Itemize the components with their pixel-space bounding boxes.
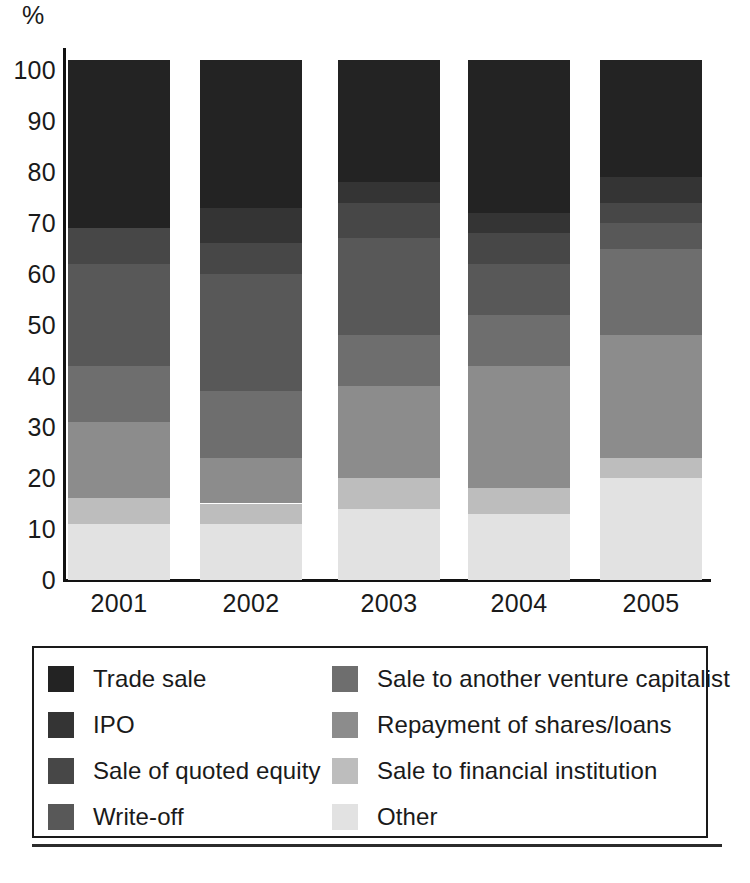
legend-swatch-icon	[332, 758, 358, 784]
legend-label: Sale to another venture capitalist	[377, 666, 730, 692]
bar-segment	[468, 60, 570, 213]
legend-label: Sale of quoted equity	[93, 758, 321, 784]
legend-entry: Sale to another venture capitalist	[332, 662, 730, 696]
bar-segment	[600, 223, 702, 249]
bar-segment	[468, 514, 570, 580]
bar-segment	[600, 478, 702, 580]
bar-column-2002	[200, 0, 302, 580]
legend-entry: Other	[332, 800, 438, 834]
bar-column-2004	[468, 0, 570, 580]
bar-segment	[338, 509, 440, 580]
bar-segment	[338, 182, 440, 202]
legend-underline-rule	[32, 844, 722, 847]
bar-segment	[600, 458, 702, 478]
bar-segment	[338, 335, 440, 386]
bar-segment	[68, 498, 170, 524]
legend-swatch-icon	[332, 804, 358, 830]
bar-segment	[468, 315, 570, 366]
bar-segment	[468, 366, 570, 488]
bar-segment	[200, 524, 302, 580]
bar-segment	[200, 208, 302, 244]
legend-grid: Trade saleSale to another venture capita…	[34, 648, 706, 836]
bar-segment	[338, 478, 440, 509]
x-axis-tick-2005: 2005	[600, 588, 702, 618]
bar-segment	[68, 228, 170, 264]
bar-segment	[600, 203, 702, 223]
bar-segment	[600, 335, 702, 457]
bar-segment	[468, 233, 570, 264]
bar-segment	[468, 213, 570, 233]
bar-segment	[468, 264, 570, 315]
bar-segment	[200, 243, 302, 274]
bar-segment	[200, 60, 302, 208]
legend-label: Trade sale	[93, 666, 207, 692]
bar-segment	[600, 249, 702, 336]
legend-entry: Repayment of shares/loans	[332, 708, 672, 742]
x-axis-tick-labels: 20012002200320042005	[0, 588, 750, 628]
bar-column-2003	[338, 0, 440, 580]
bar-segment	[338, 238, 440, 335]
legend-swatch-icon	[332, 666, 358, 692]
stacked-bar-chart: % 1009080706050403020100 200120022003200…	[0, 0, 750, 640]
bar-segment	[68, 60, 170, 228]
x-axis-tick-2003: 2003	[338, 588, 440, 618]
bar-segment	[200, 458, 302, 504]
legend-entry: Write-off	[48, 800, 184, 834]
legend-label: Write-off	[93, 804, 184, 830]
legend-label: Repayment of shares/loans	[377, 712, 672, 738]
legend-swatch-icon	[332, 712, 358, 738]
legend-label: IPO	[93, 712, 135, 738]
legend-swatch-icon	[48, 712, 74, 738]
bar-segment	[200, 274, 302, 391]
x-axis-tick-2002: 2002	[200, 588, 302, 618]
legend-swatch-icon	[48, 758, 74, 784]
legend-entry: Trade sale	[48, 662, 207, 696]
bar-segment	[68, 366, 170, 422]
legend-entry: Sale to financial institution	[332, 754, 657, 788]
x-axis-tick-2001: 2001	[68, 588, 170, 618]
bar-segment	[68, 264, 170, 366]
bar-segment	[200, 504, 302, 524]
legend-entry: IPO	[48, 708, 135, 742]
bar-segment	[338, 60, 440, 182]
bar-segment	[68, 422, 170, 499]
legend-swatch-icon	[48, 666, 74, 692]
bar-segment	[600, 60, 702, 177]
bar-segment	[68, 524, 170, 580]
bar-column-2001	[68, 0, 170, 580]
x-axis-tick-2004: 2004	[468, 588, 570, 618]
legend-label: Other	[377, 804, 438, 830]
bar-column-2005	[600, 0, 702, 580]
bar-segment	[468, 488, 570, 514]
legend-swatch-icon	[48, 804, 74, 830]
bars-layer	[0, 0, 750, 640]
chart-legend: Trade saleSale to another venture capita…	[32, 646, 708, 838]
bar-segment	[338, 386, 440, 478]
bar-segment	[600, 177, 702, 203]
bar-segment	[338, 203, 440, 239]
legend-label: Sale to financial institution	[377, 758, 657, 784]
legend-entry: Sale of quoted equity	[48, 754, 321, 788]
bar-segment	[200, 391, 302, 457]
